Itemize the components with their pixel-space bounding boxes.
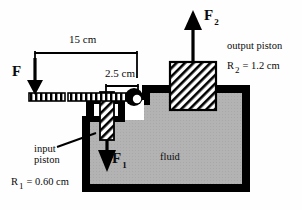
input-radius-label: R1= 0.60 cm <box>11 177 69 188</box>
force-arrow-F <box>27 58 43 95</box>
dimension-label-15cm: 15 cm <box>69 34 96 45</box>
output-radius-value: = 1.2 cm <box>243 60 280 71</box>
force-arrow-F2 <box>184 10 202 62</box>
diagram-canvas: 15 cm 2.5 cm F F1 F2 output piston R2= 1… <box>0 0 302 210</box>
output-piston <box>170 62 216 110</box>
force-label-F2-subscript: 2 <box>214 17 219 27</box>
force-label-F2-symbol: F <box>204 7 213 23</box>
lever-arm <box>29 93 133 101</box>
input-piston-label-line2: piston <box>34 155 60 166</box>
dimension-label-25cm: 2.5 cm <box>105 68 135 79</box>
output-radius-symbol: R <box>227 60 234 71</box>
output-radius-subscript: 2 <box>235 65 240 75</box>
input-radius-subscript: 1 <box>19 181 24 191</box>
input-radius-value: = 0.60 cm <box>27 176 69 187</box>
force-label-F: F <box>12 64 21 79</box>
input-radius-symbol: R <box>11 176 18 187</box>
fluid-label: fluid <box>160 152 180 163</box>
force-label-F1-symbol: F <box>112 150 121 166</box>
output-radius-label: R2= 1.2 cm <box>227 61 280 72</box>
output-piston-label: output piston <box>227 41 282 52</box>
force-label-F1: F1 <box>112 150 126 166</box>
force-label-F2: F2 <box>204 7 218 23</box>
lever-pivot <box>125 88 143 106</box>
force-label-F1-subscript: 1 <box>122 160 127 170</box>
input-piston-label-line1: input <box>34 144 56 155</box>
